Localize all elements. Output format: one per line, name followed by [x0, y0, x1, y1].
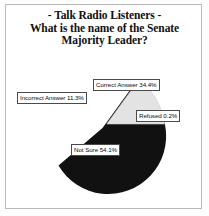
chart-title-line-2: What is the name of the Senate: [10, 22, 199, 35]
pie-label-not-sure: Not Sure 54.1%: [71, 144, 120, 156]
pie-chart: [0, 52, 209, 204]
chart-canvas: - Talk Radio Listeners - What is the nam…: [0, 0, 209, 216]
pie-label-incorrect-answer: Incorrect Answer 11.3%: [17, 92, 87, 104]
pie-svg: [0, 52, 209, 204]
pie-label-refused: Refused 0.2%: [136, 110, 180, 122]
chart-image: - Talk Radio Listeners - What is the nam…: [0, 0, 209, 216]
chart-title: - Talk Radio Listeners - What is the nam…: [10, 9, 199, 47]
chart-title-line-1: - Talk Radio Listeners -: [10, 9, 199, 22]
pie-label-correct-answer: Correct Answer 34.4%: [93, 79, 160, 91]
chart-title-line-3: Majority Leader?: [10, 34, 199, 47]
